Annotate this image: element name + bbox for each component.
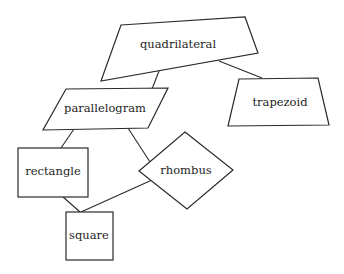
edge-quadrilateral-parallelogram (152, 71, 159, 89)
trapezoid-label: trapezoid (252, 95, 308, 109)
node-rhombus[interactable]: rhombus (139, 132, 233, 209)
node-trapezoid[interactable]: trapezoid (228, 78, 329, 126)
node-parallelogram[interactable]: parallelogram (43, 88, 168, 130)
square-label: square (69, 228, 109, 242)
node-rectangle[interactable]: rectangle (18, 148, 88, 197)
edge-quadrilateral-trapezoid (219, 61, 262, 78)
edge-parallelogram-rhombus (128, 128, 150, 162)
rhombus-label: rhombus (160, 163, 212, 177)
node-square[interactable]: square (66, 212, 113, 260)
node-quadrilateral[interactable]: quadrilateral (101, 17, 258, 81)
quadrilateral-hierarchy-diagram: quadrilateral trapezoid parallelogram re… (0, 0, 344, 274)
edge-parallelogram-rectangle (61, 129, 74, 148)
edge-rhombus-square (81, 180, 152, 212)
edge-rectangle-square (62, 196, 80, 212)
rectangle-label: rectangle (25, 164, 81, 178)
quadrilateral-label: quadrilateral (140, 37, 216, 51)
parallelogram-label: parallelogram (64, 101, 146, 115)
